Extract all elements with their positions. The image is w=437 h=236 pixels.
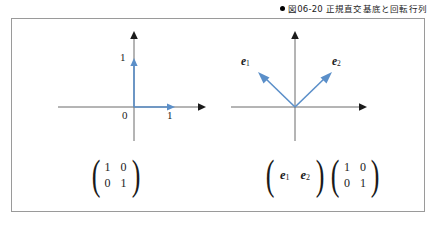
matrix-open-paren: (: [331, 158, 340, 193]
y-tick-label: 1: [120, 51, 126, 63]
rowvec-open-paren: (: [266, 158, 275, 193]
identity-matrix-formula: ( 1 0 0 1 ): [12, 145, 219, 207]
rotated-basis-panel: e1 e2 ( e1 e2 ) ( 1: [219, 19, 426, 213]
matrix-cell-r1c2: 0: [360, 160, 366, 175]
bullet-icon: [280, 6, 285, 11]
x-axis-arrowhead: [198, 103, 206, 111]
e2-vector-line: [295, 77, 326, 107]
rowvec-close-paren: ): [316, 158, 325, 193]
basis-expression: ( e1 e2 ) ( 1 0 0 1 ): [263, 158, 382, 193]
matrix-cells: 1 0 0 1: [343, 160, 367, 191]
figure-caption: 図06-20 正規直交基底と回転行列: [280, 2, 427, 14]
matrix-cell-r2c2: 1: [121, 176, 127, 191]
rotated-basis-axes: [219, 25, 426, 143]
figure-frame: 0 1 1 ( 1 0 0 1 ): [11, 18, 425, 212]
e2-vector-label: e2: [332, 55, 341, 68]
matrix-cell-r2c1: 0: [105, 176, 111, 191]
x-tick-label: 1: [167, 109, 173, 121]
matrix-cells: 1 0 0 1: [104, 160, 128, 191]
matrix-close-paren: ): [371, 158, 380, 193]
matrix-cell-r2c1: 0: [344, 176, 350, 191]
matrix-open-paren: (: [91, 158, 100, 193]
matrix-cell-r1c2: 0: [121, 160, 127, 175]
y-unit-vector-arrowhead: [130, 58, 137, 66]
rotated-basis-plot: e1 e2: [219, 25, 426, 143]
identity-matrix: ( 1 0 0 1 ): [89, 158, 143, 193]
rowvec-e1: e1: [280, 168, 290, 183]
figure-caption-text: 図06-20 正規直交基底と回転行列: [288, 2, 427, 14]
basis-row-vector: e1 e2: [278, 168, 312, 183]
standard-basis-axes: [12, 25, 219, 143]
matrix-cell-r2c2: 1: [360, 176, 366, 191]
e1-vector-line: [264, 77, 295, 107]
standard-basis-panel: 0 1 1 ( 1 0 0 1 ): [12, 19, 219, 213]
basis-times-identity-formula: ( e1 e2 ) ( 1 0 0 1 ): [219, 145, 426, 207]
matrix-cell-r1c1: 1: [344, 160, 350, 175]
e1-vector-label: e1: [241, 55, 250, 68]
e1-vector-arrowhead: [258, 72, 270, 84]
standard-basis-plot: 0 1 1: [12, 25, 219, 143]
matrix-close-paren: ): [131, 158, 140, 193]
matrix-cell-r1c1: 1: [105, 160, 111, 175]
x-axis-arrowhead: [359, 103, 367, 111]
rowvec-e2: e2: [301, 168, 311, 183]
y-axis-arrowhead: [291, 31, 299, 39]
e2-vector-arrowhead: [321, 72, 333, 84]
origin-label: 0: [122, 109, 128, 121]
y-axis-arrowhead: [130, 31, 138, 39]
